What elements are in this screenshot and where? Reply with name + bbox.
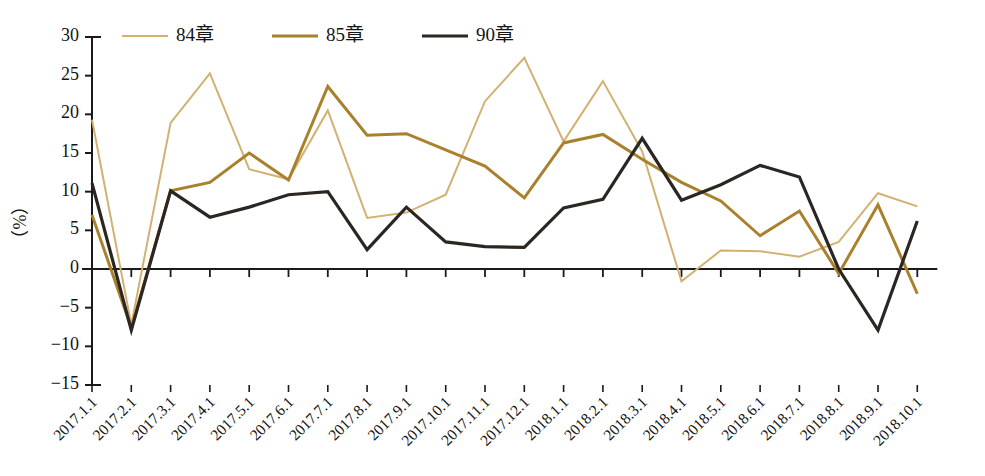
x-axis-group: 2017.1.12017.2.12017.3.12017.4.12017.5.1…: [50, 269, 938, 449]
legend-label-84章: 84章: [176, 24, 214, 45]
series-lines: [92, 58, 917, 330]
legend-label-85章: 85章: [326, 24, 364, 45]
legend-label-90章: 90章: [476, 24, 514, 45]
series-line-84章: [92, 58, 917, 325]
y-axis-tick-label: 10: [61, 180, 79, 200]
y-axis-tick-label: −5: [60, 296, 79, 316]
y-axis-tick-label: −15: [51, 373, 79, 393]
y-axis-tick-label: −10: [51, 334, 79, 354]
series-line-90章: [92, 138, 917, 330]
y-axis-group: 302520151050−5−10−15 （%）: [10, 25, 101, 393]
y-axis-tick-label: 20: [61, 102, 79, 122]
y-axis-tick-labels: 302520151050−5−10−15: [51, 25, 79, 393]
chart-container: 302520151050−5−10−15 （%） 2017.1.12017.2.…: [0, 0, 985, 476]
series-line-85章: [92, 86, 917, 327]
y-axis-tick-label: 5: [70, 218, 79, 238]
y-axis-tick-label: 0: [70, 257, 79, 277]
y-axis-tick-label: 15: [61, 141, 79, 161]
x-axis-tick-labels: 2017.1.12017.2.12017.3.12017.4.12017.5.1…: [50, 393, 926, 449]
y-axis-tick-label: 25: [61, 64, 79, 84]
x-axis-ticks: [92, 269, 917, 392]
chart-legend: 84章85章90章: [122, 24, 514, 45]
y-axis-title: （%）: [10, 197, 30, 248]
y-axis-tick-label: 30: [61, 25, 79, 45]
line-chart: 302520151050−5−10−15 （%） 2017.1.12017.2.…: [0, 0, 985, 476]
